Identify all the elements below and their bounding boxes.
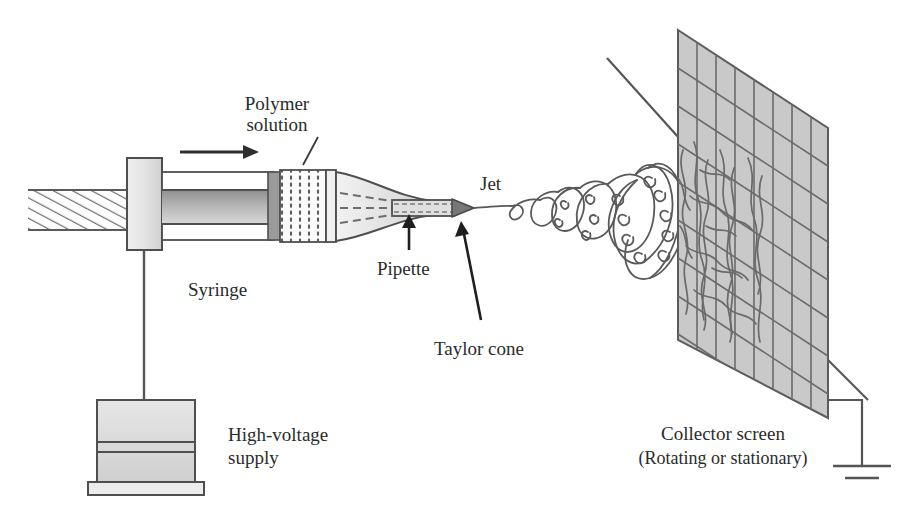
pipette-tube — [392, 200, 454, 216]
label-jet: Jet — [480, 173, 502, 194]
label-collector-screen-line1: Collector screen — [661, 423, 785, 444]
label-collector-screen-line2: (Rotating or stationary) — [639, 448, 808, 469]
chamber-housing — [326, 170, 336, 242]
flow-direction-arrow — [180, 145, 259, 159]
earth-ground-symbol — [833, 466, 891, 478]
syringe-barrel — [162, 172, 274, 240]
whipping-jet — [474, 164, 685, 279]
arrow-taylor-cone — [455, 221, 481, 320]
taylor-cone-tip — [452, 199, 474, 217]
high-voltage-supply-box — [88, 400, 204, 495]
leader-line-polymer-solution — [303, 137, 318, 165]
electrospinning-diagram: Polymer solution Syringe Pipette Taylor … — [0, 0, 912, 522]
label-polymer-solution-line2: solution — [246, 114, 308, 135]
label-taylor-cone: Taylor cone — [434, 338, 524, 359]
label-high-voltage-line1: High-voltage — [228, 424, 328, 445]
label-pipette: Pipette — [377, 258, 430, 279]
polymer-solution-chamber — [280, 170, 326, 242]
barrel-seal — [268, 172, 280, 240]
label-syringe: Syringe — [188, 279, 247, 300]
label-polymer-solution-line1: Polymer — [245, 93, 310, 114]
label-high-voltage-line2: supply — [228, 447, 279, 468]
ground-wire — [828, 400, 862, 466]
plunger-flange-block — [127, 158, 162, 250]
threaded-plunger-rod — [28, 190, 133, 230]
